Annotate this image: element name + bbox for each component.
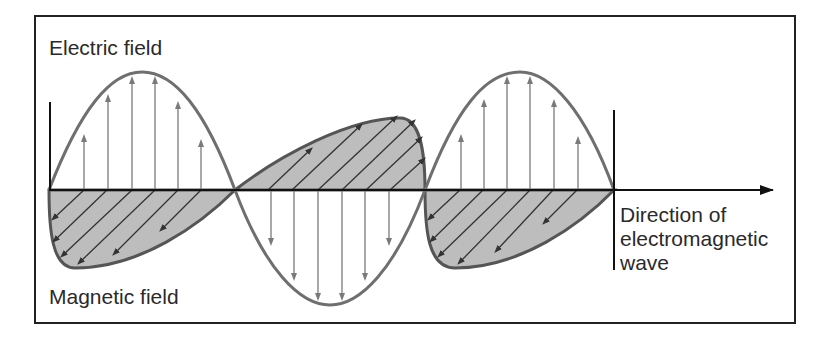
electric-field-label: Electric field xyxy=(49,36,162,60)
magnetic-field-label: Magnetic field xyxy=(49,285,179,309)
direction-label-line2: electromagnetic xyxy=(620,227,768,251)
direction-label-line1: Direction of xyxy=(620,203,726,227)
magnetic-field-lobes xyxy=(49,118,614,268)
direction-label-line3: wave xyxy=(620,251,669,275)
